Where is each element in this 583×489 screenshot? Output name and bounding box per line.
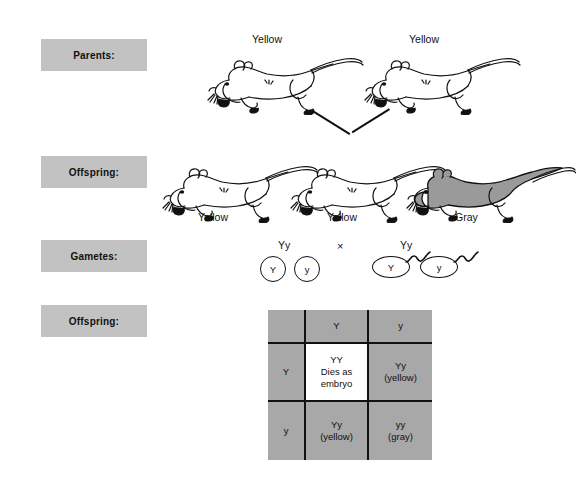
punnett-cell-yy-genotype: yy xyxy=(396,419,406,431)
punnett-cell-YY-note-line1: Dies as xyxy=(321,366,353,378)
row-label-gametes: Gametes: xyxy=(41,240,147,272)
offspring-1-phenotype-label: Yellow xyxy=(198,211,228,223)
punnett-cell-Yy-bottom: Yy (yellow) xyxy=(306,402,369,460)
row-label-parents: Parents: xyxy=(41,39,147,71)
punnett-cell-YY: YY Dies as embryo xyxy=(306,344,369,402)
mouse-line-drawing-icon xyxy=(205,50,365,115)
punnett-row-header-2: y xyxy=(268,402,306,460)
punnett-row-header-2-text: y xyxy=(284,425,289,437)
offspring-mouse-3-gray xyxy=(404,158,576,223)
punnett-square: Y y Y YY Dies as embryo Yy (yellow) y Yy… xyxy=(268,310,432,460)
row-label-offspring-punnett-text: Offspring: xyxy=(69,316,119,327)
egg-gamete-2: y xyxy=(294,256,320,282)
punnett-cell-Yy-bottom-genotype: Yy xyxy=(331,419,342,431)
cross-symbol: × xyxy=(337,240,343,252)
parent-2-phenotype-label: Yellow xyxy=(409,33,439,45)
parent-mouse-2 xyxy=(362,50,522,115)
punnett-column-header-1-text: Y xyxy=(333,320,339,332)
punnett-column-header-1: Y xyxy=(306,310,369,344)
mouse-line-drawing-icon xyxy=(362,50,522,115)
sperm-gamete-1-allele: Y xyxy=(388,262,394,273)
punnett-row-header-1: Y xyxy=(268,344,306,402)
offspring-2-phenotype-label: Yellow xyxy=(327,211,357,223)
punnett-corner-cell xyxy=(268,310,306,344)
punnett-cell-yy: yy (gray) xyxy=(369,402,432,460)
punnett-cell-Yy-bottom-phenotype: (yellow) xyxy=(320,431,353,443)
punnett-column-header-2: y xyxy=(369,310,432,344)
punnett-cell-YY-genotype: YY xyxy=(330,354,343,366)
sperm-tail-icon xyxy=(453,250,479,268)
punnett-cell-Yy-top-phenotype: (yellow) xyxy=(384,372,417,384)
maternal-genotype-label: Yy xyxy=(278,239,290,251)
egg-gamete-2-allele: y xyxy=(305,264,310,275)
egg-gamete-1: Y xyxy=(260,256,286,282)
punnett-column-header-2-text: y xyxy=(398,320,403,332)
row-label-offspring-punnett: Offspring: xyxy=(41,305,147,337)
egg-gamete-1-allele: Y xyxy=(270,264,276,275)
row-label-offspring-phenotypes-text: Offspring: xyxy=(69,167,119,178)
mouse-line-drawing-icon xyxy=(404,158,576,223)
punnett-row-header-1-text: Y xyxy=(283,366,289,378)
genetics-diagram: Parents: Offspring: Gametes: Offspring: … xyxy=(0,0,583,489)
parent-mouse-1 xyxy=(205,50,365,115)
row-label-offspring-phenotypes: Offspring: xyxy=(41,156,147,188)
row-label-parents-text: Parents: xyxy=(73,50,115,61)
punnett-cell-yy-phenotype: (gray) xyxy=(388,431,413,443)
parent-1-phenotype-label: Yellow xyxy=(252,33,282,45)
punnett-cell-Yy-top-genotype: Yy xyxy=(395,360,406,372)
punnett-cell-Yy-top: Yy (yellow) xyxy=(369,344,432,402)
punnett-cell-YY-note-line2: embryo xyxy=(321,378,353,390)
sperm-gamete-2-allele: y xyxy=(437,262,442,273)
offspring-3-phenotype-label: Gray xyxy=(455,211,478,223)
row-label-gametes-text: Gametes: xyxy=(70,251,117,262)
